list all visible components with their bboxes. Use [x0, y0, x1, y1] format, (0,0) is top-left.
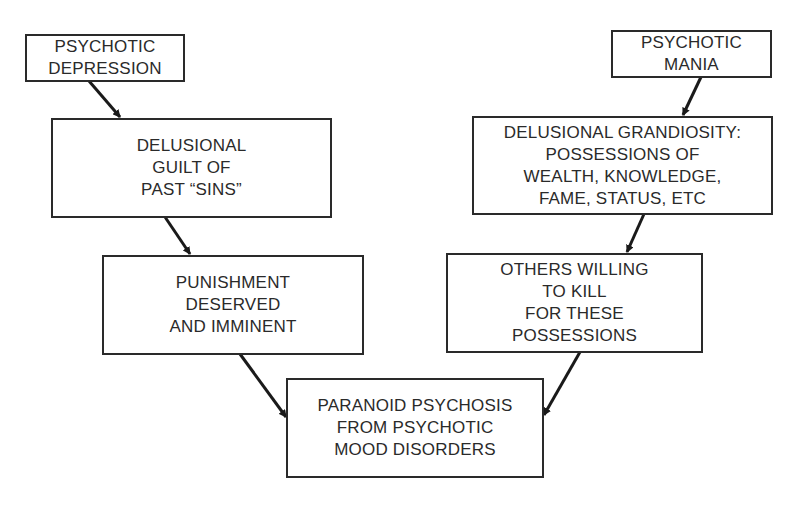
node-paranoid-psychosis: PARANOID PSYCHOSIS FROM PSYCHOTIC MOOD D… — [286, 378, 544, 478]
arrow-grandiosity-to-others — [627, 214, 644, 252]
node-delusional-grandiosity: DELUSIONAL GRANDIOSITY: POSSESSIONS OF W… — [472, 116, 773, 215]
arrow-others-to-paranoid — [544, 352, 580, 415]
arrow-mania-to-grandiosity — [683, 77, 701, 115]
node-psychotic-mania: PSYCHOTIC MANIA — [611, 30, 772, 78]
node-psychotic-depression: PSYCHOTIC DEPRESSION — [25, 34, 185, 82]
node-others-willing: OTHERS WILLING TO KILL FOR THESE POSSESS… — [446, 253, 703, 353]
arrow-depression-to-guilt — [89, 81, 120, 117]
node-punishment: PUNISHMENT DESERVED AND IMMINENT — [102, 255, 364, 355]
arrow-punishment-to-paranoid — [240, 354, 286, 417]
node-delusional-guilt: DELUSIONAL GUILT OF PAST “SINS” — [51, 118, 332, 218]
arrow-guilt-to-punishment — [165, 217, 190, 254]
